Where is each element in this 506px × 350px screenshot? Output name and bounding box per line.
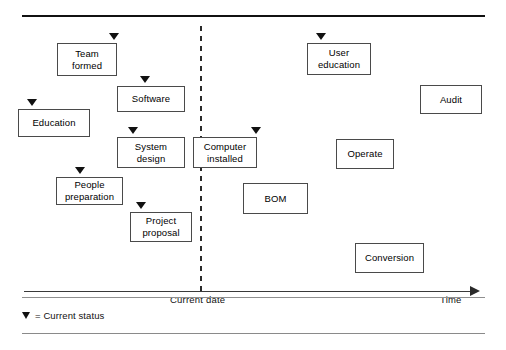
current-date-label: Current date xyxy=(170,294,225,305)
milestone-box-education[interactable]: Education xyxy=(18,109,90,137)
milestone-label-line2: proposal xyxy=(142,227,179,238)
status-marker-project-proposal xyxy=(136,202,146,209)
milestone-label-line1: User xyxy=(329,47,349,58)
bottom-rule xyxy=(22,333,485,334)
status-marker-user-education xyxy=(316,33,326,40)
milestone-label-line2: installed xyxy=(207,153,243,164)
milestone-label-line1: Team xyxy=(75,48,99,59)
milestone-box-audit[interactable]: Audit xyxy=(420,85,482,114)
milestone-label: Computerinstalled xyxy=(204,141,247,165)
status-marker-team-formed xyxy=(109,33,119,40)
top-rule xyxy=(22,15,485,17)
milestone-box-conversion[interactable]: Conversion xyxy=(355,243,424,273)
milestone-box-team-formed[interactable]: Teamformed xyxy=(57,43,117,76)
milestone-label: Peoplepreparation xyxy=(65,179,114,203)
milestone-box-people-preparation[interactable]: Peoplepreparation xyxy=(56,177,123,205)
milestone-label-line2: design xyxy=(137,153,166,164)
milestone-label-line2: formed xyxy=(72,60,102,71)
milestone-label-line1: BOM xyxy=(265,193,287,205)
legend-label: = Current status xyxy=(35,310,104,321)
status-marker-system-design xyxy=(128,127,138,134)
milestone-label: Usereducation xyxy=(318,47,360,71)
milestone-label-line2: education xyxy=(318,59,360,70)
milestone-box-operate[interactable]: Operate xyxy=(336,139,394,169)
status-marker-computer-installed xyxy=(251,127,261,134)
time-axis-arrow-icon xyxy=(470,286,480,296)
status-marker-software xyxy=(140,76,150,83)
milestone-label-line1: Conversion xyxy=(365,252,414,264)
legend-divider-rule xyxy=(22,297,485,298)
milestone-box-bom[interactable]: BOM xyxy=(243,183,308,214)
milestone-timeline-figure: TeamformedSoftwareEducationSystemdesignC… xyxy=(0,0,506,350)
milestone-box-software[interactable]: Software xyxy=(117,86,185,112)
milestone-label-line1: Operate xyxy=(347,148,382,160)
legend: = Current status xyxy=(22,310,104,321)
milestone-label-line1: System xyxy=(135,141,167,152)
status-marker-education xyxy=(27,99,37,106)
milestone-box-system-design[interactable]: Systemdesign xyxy=(117,137,185,168)
milestone-label: Teamformed xyxy=(72,48,102,72)
milestone-label-line1: People xyxy=(74,179,104,190)
milestone-label-line1: Software xyxy=(132,93,170,105)
milestone-label-line1: Computer xyxy=(204,141,247,152)
milestone-label-line2: preparation xyxy=(65,191,114,202)
down-triangle-icon xyxy=(22,312,30,319)
milestone-label: Systemdesign xyxy=(135,141,167,165)
status-marker-people-preparation xyxy=(75,167,85,174)
milestone-label-line1: Education xyxy=(32,117,75,129)
time-axis-label: Time xyxy=(440,294,462,305)
milestone-label: Projectproposal xyxy=(142,215,179,239)
milestone-box-user-education[interactable]: Usereducation xyxy=(307,43,371,75)
time-axis-line xyxy=(24,291,476,292)
milestone-box-computer-installed[interactable]: Computerinstalled xyxy=(193,137,257,168)
milestone-label-line1: Audit xyxy=(440,94,462,106)
milestone-box-project-proposal[interactable]: Projectproposal xyxy=(130,212,192,242)
milestone-label-line1: Project xyxy=(146,215,176,226)
